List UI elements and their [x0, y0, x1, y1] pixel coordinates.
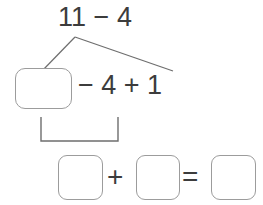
middle-expression: − 4 + 1 [78, 72, 162, 99]
top-expression: 11 − 4 [0, 4, 190, 31]
equals-sign-bottom: = [182, 163, 198, 191]
branch-left-line [42, 37, 75, 71]
grouping-bracket [41, 117, 118, 141]
blank-box-addend-1[interactable] [58, 155, 103, 200]
blank-box-partial-difference[interactable] [15, 68, 72, 109]
blank-box-sum[interactable] [211, 155, 256, 200]
math-worksheet-canvas: 11 − 4 − 4 + 1 + = [0, 0, 263, 205]
branch-right-line [75, 37, 173, 71]
plus-sign-bottom: + [107, 163, 123, 191]
blank-box-addend-2[interactable] [136, 155, 180, 200]
